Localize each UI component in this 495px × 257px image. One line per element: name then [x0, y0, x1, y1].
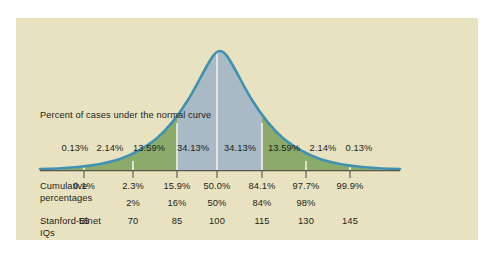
cumulative-percentage-value: 99.9%	[337, 181, 364, 191]
cumulative-percentage-value: 2.3%	[122, 181, 144, 191]
iq-score-value: 130	[298, 216, 314, 226]
band-percent-label: 34.13%	[224, 143, 256, 153]
cumulative-percentage-value: 84.1%	[249, 181, 276, 191]
rounded-percentages-row: 2%16%50%84%98%	[16, 198, 478, 211]
cumulative-percentage-value: 15.9%	[164, 181, 191, 191]
rounded-percentage-value: 50%	[208, 198, 227, 208]
band-percent-label: 13.59%	[133, 143, 165, 153]
cumulative-percentages-row: 0.1%2.3%15.9%50.0%84.1%97.7%99.9%	[16, 181, 478, 194]
band-percent-label: 0.13%	[62, 143, 89, 153]
rounded-percentage-value: 16%	[168, 198, 187, 208]
cumulative-percentage-value: 0.1%	[73, 181, 95, 191]
iq-score-value: 100	[209, 216, 225, 226]
plot-area: Percent of cases under the normal curve …	[16, 18, 478, 240]
axis-ticks	[84, 171, 350, 178]
rounded-percentage-value: 84%	[253, 198, 272, 208]
normal-curve-figure: Percent of cases under the normal curve …	[16, 18, 478, 240]
iq-score-value: 145	[342, 216, 358, 226]
rounded-percentage-value: 98%	[297, 198, 316, 208]
band-percent-label: 34.13%	[177, 143, 209, 153]
rounded-percentage-value: 2%	[126, 198, 140, 208]
cumulative-percentage-value: 97.7%	[293, 181, 320, 191]
chart-caption: Percent of cases under the normal curve	[40, 110, 230, 122]
iq-score-value: 115	[254, 216, 269, 226]
iq-score-value: 70	[128, 216, 139, 226]
band-percent-label: 2.14%	[97, 143, 124, 153]
cumulative-percentage-value: 50.0%	[204, 181, 231, 191]
iq-score-value: 55	[79, 216, 90, 226]
band-percent-row: 0.13%2.14%13.59%34.13%34.13%13.59%2.14%0…	[16, 143, 478, 157]
stanford-binet-iqs-row: 557085100115130145	[16, 216, 478, 229]
iq-score-value: 85	[172, 216, 183, 226]
band-percent-label: 13.59%	[268, 143, 300, 153]
band-percent-label: 0.13%	[346, 143, 373, 153]
band-percent-label: 2.14%	[310, 143, 337, 153]
